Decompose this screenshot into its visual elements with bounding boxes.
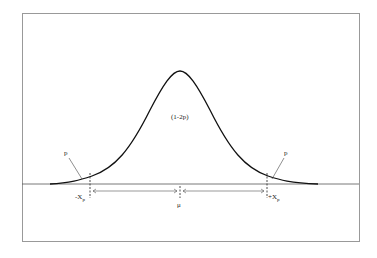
right-xp-sub: p (277, 197, 280, 202)
right-p-pointer (272, 158, 284, 179)
right-tail-label: p (284, 149, 288, 157)
frame (23, 14, 360, 242)
left-xp-sub: p (82, 197, 85, 202)
right-xp-label: +Xp (268, 193, 280, 202)
right-xp-text: +X (268, 193, 277, 201)
normal-distribution-diagram (0, 0, 377, 258)
right-distance-arrow (183, 189, 264, 193)
left-tail-label: p (64, 149, 68, 157)
mean-label: μ (177, 201, 181, 209)
left-distance-arrow (93, 189, 177, 193)
left-xp-label: -Xp (75, 193, 85, 202)
left-p-pointer (69, 158, 82, 179)
bell-curve (50, 71, 318, 184)
center-area-label: (1-2p) (171, 113, 189, 121)
